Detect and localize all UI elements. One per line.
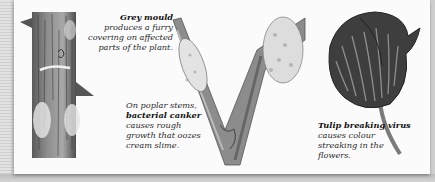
caption-canker-lead: On poplar stems, [126, 100, 197, 110]
scan-edge-right [430, 0, 435, 182]
caption-canker-text: causes rough growth that oozes cream sli… [126, 120, 201, 150]
mould-patch [33, 102, 51, 138]
thorn [20, 18, 32, 28]
caption-tulip-title: Tulip breaking virus [318, 120, 411, 130]
canker-growth [263, 17, 303, 83]
caption-tulip-text: causes colour streaking in the flowers. [318, 130, 384, 160]
caption-grey-mould-text: produces a furry covering on affected pa… [88, 22, 173, 52]
caption-grey-mould-title: Grey mould [120, 12, 173, 22]
caption-bacterial-canker: On poplar stems, bacterial canker causes… [126, 100, 206, 150]
scan-edge-left [0, 0, 14, 182]
mould-patch [64, 104, 80, 136]
caption-canker-title: bacterial canker [126, 110, 201, 120]
caption-grey-mould: Grey mould produces a furry covering on … [85, 12, 173, 52]
scan-edge-bottom [0, 174, 435, 182]
thorn [76, 82, 94, 96]
caption-tulip-breaking: Tulip breaking virus causes colour strea… [318, 120, 413, 160]
